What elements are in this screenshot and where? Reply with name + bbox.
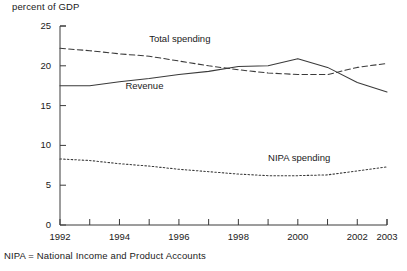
- series-line-nipa-spending: [60, 159, 387, 176]
- y-tick-label: 20: [40, 60, 51, 71]
- series-line-total-spending: [60, 48, 387, 74]
- x-tick-label: 2002: [347, 231, 368, 242]
- line-chart-plot: 0510152025 1992199419961998200020022003 …: [0, 0, 407, 271]
- axis-lines: [60, 26, 387, 225]
- series-label-revenue: Revenue: [125, 80, 163, 91]
- x-tick-label: 2000: [287, 231, 308, 242]
- x-tick-label: 1992: [49, 231, 70, 242]
- y-axis-ticks: 0510152025: [40, 20, 66, 230]
- series-label-total-spending: Total spending: [149, 33, 210, 44]
- y-tick-label: 5: [46, 179, 51, 190]
- x-tick-label: 1994: [109, 231, 130, 242]
- chart-footnote: NIPA = National Income and Product Accou…: [4, 250, 206, 261]
- x-axis-ticks: 1992199419961998200020022003: [49, 219, 397, 242]
- x-tick-label: 1996: [168, 231, 189, 242]
- series-label-nipa-spending: NIPA spending: [268, 152, 330, 163]
- y-tick-label: 15: [40, 100, 51, 111]
- axis-frame: [60, 26, 387, 225]
- y-tick-label: 25: [40, 20, 51, 31]
- x-tick-label: 2003: [376, 231, 397, 242]
- series-annotations: Total spendingRevenueNIPA spending: [125, 33, 330, 163]
- y-tick-label: 0: [46, 219, 51, 230]
- chart-figure: percent of GDP 0510152025 19921994199619…: [0, 0, 407, 271]
- series-line-revenue: [60, 59, 387, 92]
- series-lines: [60, 48, 387, 175]
- x-tick-label: 1998: [228, 231, 249, 242]
- y-tick-label: 10: [40, 139, 51, 150]
